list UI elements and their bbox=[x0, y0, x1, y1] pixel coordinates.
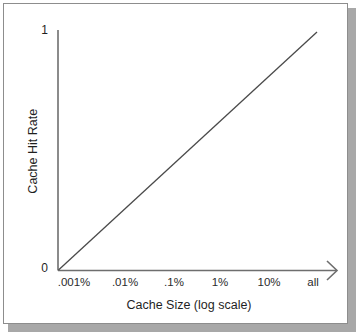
y-axis-title: Cache Hit Rate bbox=[27, 71, 40, 231]
x-axis-tick-label-3: 1% bbox=[200, 277, 240, 289]
figure-root: 1 0 .001% .01% .1% 1% 10% all Cache Size… bbox=[0, 0, 360, 336]
x-axis-title: Cache Size (log scale) bbox=[58, 299, 320, 312]
x-axis-tick-label-0: .001% bbox=[46, 277, 102, 289]
x-axis-tick-label-5: all bbox=[296, 277, 330, 289]
x-axis-tick-label-4: 10% bbox=[246, 277, 292, 289]
data-series-line bbox=[59, 32, 318, 270]
x-axis-tick-label-1: .01% bbox=[100, 277, 150, 289]
y-axis-tick-label-1: 1 bbox=[28, 24, 48, 36]
y-axis-tick-label-0: 0 bbox=[28, 262, 48, 274]
x-axis-tick-label-2: .1% bbox=[151, 277, 197, 289]
